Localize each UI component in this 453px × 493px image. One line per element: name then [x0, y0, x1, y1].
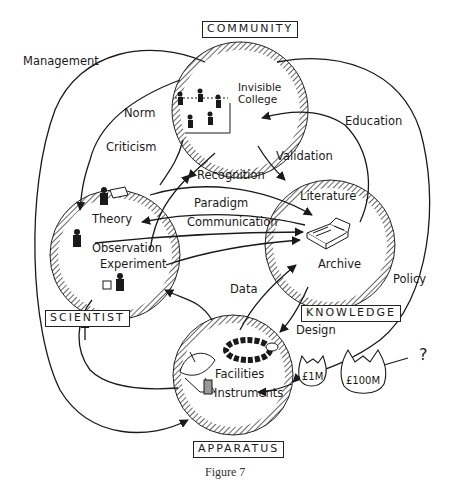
- scientist-title: SCIENTIST: [45, 310, 130, 327]
- funding-1m: £1M: [302, 371, 323, 382]
- funding-unknown: ?: [419, 347, 428, 363]
- funding-100m: £100M: [346, 375, 380, 386]
- label-invisible: Invisible: [238, 82, 281, 93]
- edge-label-management: Management: [23, 56, 99, 68]
- edge-label-data: Data: [230, 284, 257, 296]
- diagram-canvas: [0, 0, 453, 493]
- label-experiment: Experiment: [100, 259, 166, 271]
- edge-label-communication: Communication: [187, 217, 278, 229]
- label-facilities: Facilities: [215, 369, 264, 381]
- label-theory: Theory: [92, 214, 132, 226]
- edge-label-recognition: Recognition: [197, 170, 265, 182]
- edge-label-design: Design: [296, 325, 336, 337]
- label-observation: Observation: [92, 243, 162, 255]
- edge-label-validation: Validation: [276, 151, 333, 163]
- money-bag-large: [341, 350, 386, 393]
- community-title: COMMUNITY: [202, 21, 298, 38]
- edge-label-criticism: Criticism: [106, 142, 156, 154]
- label-college: College: [238, 94, 277, 105]
- edge-label-education: Education: [345, 116, 402, 128]
- label-archive: Archive: [318, 259, 361, 271]
- label-literature: Literature: [300, 191, 356, 203]
- figure-caption: Figure 7: [205, 465, 245, 480]
- apparatus-title: APPARATUS: [193, 441, 284, 458]
- edge-label-paradigm: Paradigm: [194, 198, 248, 210]
- knowledge-title: KNOWLEDGE: [301, 305, 401, 322]
- label-instruments: Instruments: [214, 388, 283, 400]
- edge-label-policy: Policy: [393, 274, 426, 286]
- criticism-arrow: [160, 140, 183, 185]
- scientist-circle: [50, 190, 180, 320]
- edge-label-norm: Norm: [124, 108, 155, 120]
